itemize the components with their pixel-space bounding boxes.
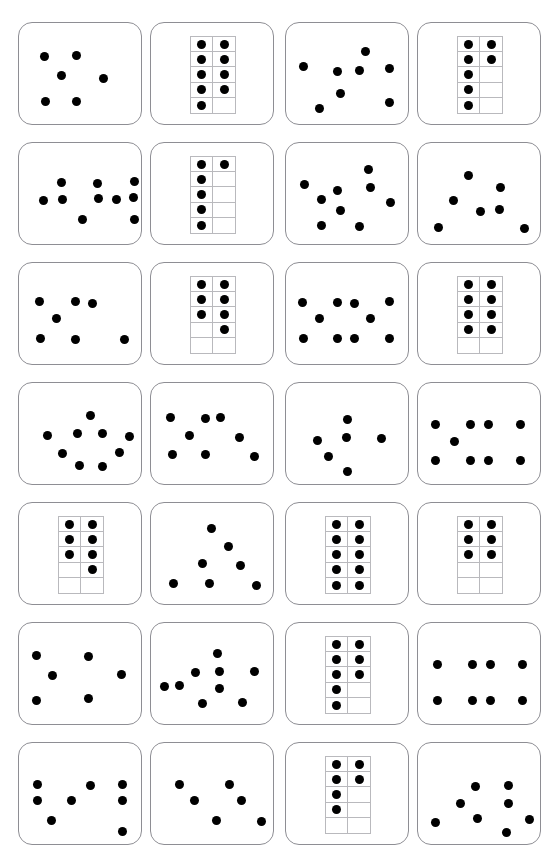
quantity-card[interactable] (150, 22, 274, 125)
ten-frame-cell-empty (213, 203, 235, 218)
ten-frame-cell-filled (191, 307, 213, 322)
quantity-card[interactable] (150, 742, 274, 845)
ten-frame-cell-empty (348, 803, 370, 818)
dot (125, 432, 134, 441)
dot (433, 696, 442, 705)
dot (207, 524, 216, 533)
ten-frame (457, 36, 503, 114)
quantity-card[interactable] (417, 742, 541, 845)
quantity-card[interactable] (18, 382, 142, 485)
quantity-card[interactable] (150, 382, 274, 485)
quantity-card[interactable] (285, 382, 409, 485)
ten-frame-cell-filled (458, 67, 480, 82)
ten-frame-cell-empty (213, 98, 235, 113)
quantity-card[interactable] (18, 262, 142, 365)
ten-frame (325, 516, 371, 594)
ten-frame-cell-empty (458, 338, 480, 353)
dot (166, 413, 175, 422)
quantity-card[interactable] (150, 142, 274, 245)
ten-frame-cell-filled (191, 203, 213, 218)
dot (118, 780, 127, 789)
ten-frame-cell-filled (326, 698, 348, 713)
quantity-card[interactable] (417, 22, 541, 125)
dot (225, 780, 234, 789)
quantity-card[interactable] (417, 502, 541, 605)
quantity-card[interactable] (417, 622, 541, 725)
dot (336, 89, 345, 98)
quantity-card[interactable] (150, 622, 274, 725)
quantity-card[interactable] (285, 742, 409, 845)
dot (433, 660, 442, 669)
dot (201, 450, 210, 459)
quantity-card[interactable] (417, 382, 541, 485)
ten-frame-cell-filled (326, 547, 348, 562)
quantity-card[interactable] (18, 502, 142, 605)
dot (88, 299, 97, 308)
quantity-card[interactable] (285, 262, 409, 365)
dot (215, 667, 224, 676)
dot (366, 183, 375, 192)
dot (32, 696, 41, 705)
dot (98, 462, 107, 471)
ten-frame-cell-filled (191, 277, 213, 292)
quantity-card[interactable] (285, 502, 409, 605)
ten-frame-cell-filled (213, 157, 235, 172)
quantity-card[interactable] (150, 502, 274, 605)
dot (250, 667, 259, 676)
ten-frame-cell-filled (213, 307, 235, 322)
dot (495, 205, 504, 214)
dot (317, 221, 326, 230)
ten-frame-cell-filled (191, 83, 213, 98)
ten-frame-cell-filled (458, 98, 480, 113)
ten-frame-cell-filled (348, 563, 370, 578)
dot (118, 827, 127, 836)
ten-frame-cell-filled (348, 637, 370, 652)
dot (350, 334, 359, 343)
dot (93, 179, 102, 188)
quantity-card[interactable] (18, 22, 142, 125)
quantity-card[interactable] (150, 262, 274, 365)
dot (366, 314, 375, 323)
dot (160, 682, 169, 691)
ten-frame-cell-filled (81, 517, 103, 532)
dot (41, 97, 50, 106)
dot (130, 215, 139, 224)
dot (518, 660, 527, 669)
quantity-card[interactable] (18, 142, 142, 245)
ten-frame-cell-filled (348, 517, 370, 532)
ten-frame-cell-filled (191, 292, 213, 307)
quantity-card[interactable] (18, 742, 142, 845)
dot (355, 66, 364, 75)
ten-frame-cell-filled (59, 517, 81, 532)
dot (299, 334, 308, 343)
dot (504, 799, 513, 808)
dot (496, 183, 505, 192)
quantity-card[interactable] (285, 22, 409, 125)
quantity-card[interactable] (417, 262, 541, 365)
quantity-card[interactable] (285, 142, 409, 245)
ten-frame-cell-filled (458, 323, 480, 338)
ten-frame-cell-empty (213, 187, 235, 202)
ten-frame-cell-empty (213, 172, 235, 187)
dot (40, 52, 49, 61)
dot (333, 334, 342, 343)
dot (464, 171, 473, 180)
ten-frame-cell-filled (191, 187, 213, 202)
dot (129, 193, 138, 202)
ten-frame (325, 636, 371, 714)
quantity-card[interactable] (417, 142, 541, 245)
ten-frame-cell-filled (81, 547, 103, 562)
dot (238, 698, 247, 707)
dot (385, 334, 394, 343)
ten-frame-cell-filled (480, 52, 502, 67)
dot (466, 456, 475, 465)
ten-frame (190, 276, 236, 354)
dot (484, 420, 493, 429)
ten-frame-cell-filled (480, 547, 502, 562)
dot (355, 222, 364, 231)
quantity-card[interactable] (285, 622, 409, 725)
quantity-card[interactable] (18, 622, 142, 725)
dot (502, 828, 511, 837)
dot (336, 206, 345, 215)
ten-frame-cell-empty (348, 818, 370, 833)
